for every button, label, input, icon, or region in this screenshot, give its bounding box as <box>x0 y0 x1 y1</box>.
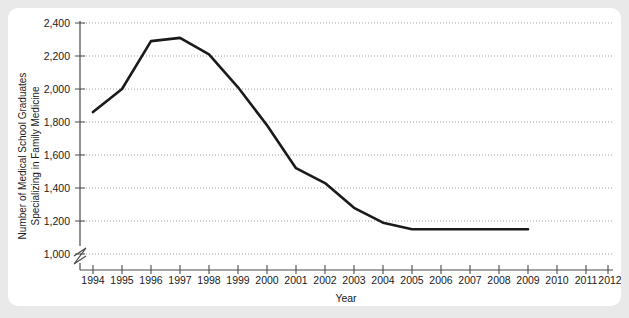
y-tick-label: 1,200 <box>44 215 70 227</box>
x-tick-label: 2010 <box>545 274 569 286</box>
x-tick-label: 2000 <box>255 274 279 286</box>
y-tick-label: 2,200 <box>44 50 70 62</box>
x-tick-label: 2009 <box>516 274 540 286</box>
x-tick-label: 2002 <box>313 274 337 286</box>
y-tick-label: 1,800 <box>44 116 70 128</box>
y-tick-label: 1,000 <box>44 248 70 260</box>
y-tick-label: 1,400 <box>44 182 70 194</box>
x-tick-label: 2012 <box>598 274 621 286</box>
y-tick-label: 2,400 <box>44 17 70 29</box>
x-tick-label: 1997 <box>168 274 192 286</box>
x-tick-label: 2003 <box>342 274 366 286</box>
x-tick-label: 1999 <box>226 274 250 286</box>
x-axis-title: Year <box>335 292 357 304</box>
x-tick-label: 1995 <box>110 274 134 286</box>
x-tick-label: 2008 <box>487 274 511 286</box>
y-axis-title-line2: Specializing in Family Medicine <box>30 86 41 225</box>
x-tick-label: 2006 <box>429 274 453 286</box>
x-tick-labels: 1994 1995 1996 1997 1998 1999 2000 2001 … <box>81 274 621 286</box>
y-axis-title-line1: Number of Medical School Graduates <box>17 73 28 240</box>
y-tick-label: 1,600 <box>44 149 70 161</box>
chart-card: 2,400 2,200 2,000 1,800 1,600 1,400 1,20… <box>8 8 621 306</box>
x-tick-label: 2011 <box>575 274 598 286</box>
line-chart: 2,400 2,200 2,000 1,800 1,600 1,400 1,20… <box>8 8 621 306</box>
y-tick-labels: 2,400 2,200 2,000 1,800 1,600 1,400 1,20… <box>44 17 70 260</box>
x-tick-label: 2004 <box>371 274 395 286</box>
y-tick-label: 2,000 <box>44 83 70 95</box>
x-tick-label: 1994 <box>81 274 105 286</box>
y-axis-break-icon <box>74 248 86 264</box>
y-axis-title: Number of Medical School Graduates Speci… <box>17 73 41 240</box>
gridlines <box>80 23 613 254</box>
x-tick-label: 1996 <box>139 274 163 286</box>
x-tick-label: 2001 <box>284 274 308 286</box>
data-series-line <box>93 38 528 229</box>
x-tick-label: 2005 <box>400 274 424 286</box>
x-tick-label: 2007 <box>458 274 482 286</box>
x-tick-label: 1998 <box>197 274 221 286</box>
